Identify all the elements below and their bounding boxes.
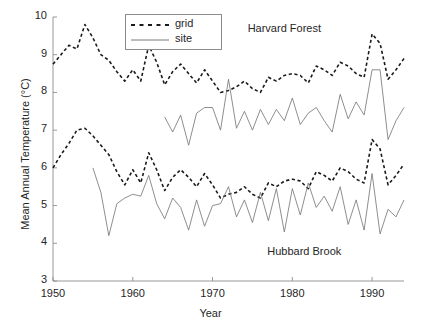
legend-label-site: site (175, 32, 192, 44)
series-line-3 (93, 168, 404, 236)
y-tick-label: 7 (17, 122, 47, 134)
annotation-label: Hubbard Brook (267, 245, 341, 257)
y-tick-label: 5 (17, 198, 47, 210)
x-tick-label: 1990 (352, 287, 392, 299)
legend-sample-lines (125, 14, 222, 50)
y-tick-label: 10 (17, 9, 47, 21)
y-tick-label: 3 (17, 273, 47, 285)
series-line-0 (53, 25, 404, 93)
x-tick-label: 1970 (193, 287, 233, 299)
chart-figure: Mean Annual Temperature (°C) Year 345678… (0, 0, 421, 330)
x-axis-title: Year (0, 307, 421, 319)
x-tick-label: 1960 (113, 287, 153, 299)
y-tick-label: 6 (17, 160, 47, 172)
annotation-label: Harvard Forest (248, 22, 321, 34)
y-tick-label: 9 (17, 47, 47, 59)
series-line-1 (165, 70, 404, 145)
legend-label-grid: grid (175, 17, 193, 29)
x-tick-label: 1950 (33, 287, 73, 299)
y-tick-label: 8 (17, 84, 47, 96)
y-tick-label: 4 (17, 235, 47, 247)
x-tick-label: 1980 (272, 287, 312, 299)
